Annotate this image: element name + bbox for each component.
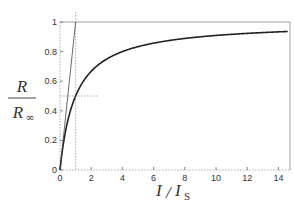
svg-text:S: S	[184, 190, 190, 202]
x-tick-label: 4	[120, 173, 125, 183]
chart: 00.20.40.60.81 02468101214 R R ∞ I / I S	[0, 0, 294, 210]
x-tick-label: 0	[57, 173, 62, 183]
svg-text:I: I	[174, 181, 182, 200]
guide-lines	[60, 12, 99, 170]
svg-text:∞: ∞	[25, 111, 34, 124]
svg-text:/: /	[165, 183, 173, 202]
y-tick-label: 1	[52, 17, 57, 27]
x-tick-label: 14	[273, 173, 283, 183]
x-tick-label: 8	[182, 173, 187, 183]
y-tick-label: 0.2	[44, 135, 57, 145]
saturation-curve	[60, 31, 288, 170]
x-axis-label: I / I S	[155, 181, 190, 202]
svg-text:I: I	[155, 181, 163, 200]
y-tick-label: 0.4	[44, 106, 57, 116]
y-tick-label: 0.8	[44, 47, 57, 57]
svg-text:R: R	[12, 103, 24, 122]
y-axis-label: R R ∞	[8, 77, 36, 124]
svg-text:R: R	[16, 77, 28, 96]
x-tick-label: 10	[211, 173, 221, 183]
x-axis-ticks: 02468101214	[57, 167, 283, 183]
y-tick-label: 0	[52, 165, 57, 175]
x-tick-label: 12	[242, 173, 252, 183]
x-tick-label: 2	[89, 173, 94, 183]
y-tick-label: 0.6	[44, 76, 57, 86]
